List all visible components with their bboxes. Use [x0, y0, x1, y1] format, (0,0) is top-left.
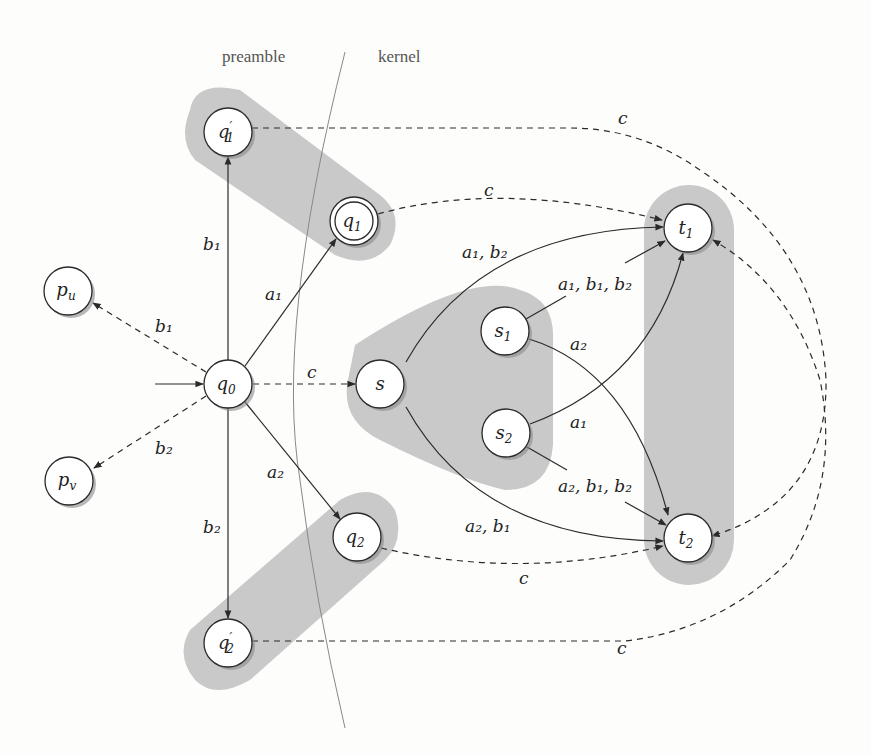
- node-label-q2p: q′2: [218, 631, 234, 656]
- label-s1-t2: a₂: [570, 334, 587, 354]
- edge-q0-pu: [93, 303, 206, 372]
- kernel-label: kernel: [378, 47, 421, 66]
- label-q0-q2p: b₂: [203, 517, 221, 537]
- edge-q0-pv: [94, 396, 206, 468]
- label-q0-q2: a₂: [267, 462, 284, 482]
- label-q2-t2: c: [519, 568, 529, 588]
- label-q1p-t2: c: [618, 108, 628, 128]
- node-label-s: s: [375, 373, 384, 394]
- node-label-q1p: q′1: [218, 120, 234, 145]
- label-s-t2: a₂, b₁: [465, 516, 510, 536]
- label-q1-t1: c: [484, 180, 494, 200]
- edge-q2-t2: [381, 546, 663, 564]
- edge-q0-q1: [245, 239, 336, 366]
- edge-q0-q2: [245, 402, 340, 519]
- label-q2p-t1: c: [617, 638, 627, 658]
- label-q0-pu: b₁: [155, 316, 173, 336]
- label-s2-t2: a₂, b₁, b₂: [558, 476, 632, 496]
- label-q0-pv: b₂: [155, 438, 173, 458]
- label-s2-t1: a₁: [570, 412, 587, 432]
- group-regions: [184, 88, 734, 691]
- edge-q1-t1: [378, 198, 662, 220]
- automaton-diagram: preamble kernel: [0, 0, 871, 755]
- preamble-label: preamble: [222, 47, 285, 66]
- label-q0-s: c: [307, 362, 317, 382]
- label-s1-t1: a₁, b₁, b₂: [558, 274, 632, 294]
- label-s-t1: a₁, b₂: [462, 242, 508, 262]
- label-q0-q1: a₁: [265, 284, 282, 304]
- label-q0-q1p: b₁: [203, 234, 221, 254]
